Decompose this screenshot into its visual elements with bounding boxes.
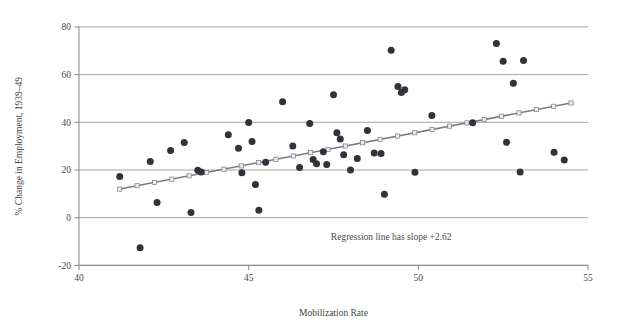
- data-point: [520, 57, 527, 64]
- data-point: [337, 135, 344, 142]
- regression-point-marker: [447, 124, 451, 128]
- data-point: [394, 83, 401, 90]
- data-point: [323, 161, 330, 168]
- data-point: [401, 86, 408, 93]
- data-point: [500, 58, 507, 65]
- x-tick-label-40: 40: [74, 273, 84, 283]
- data-point: [289, 142, 296, 149]
- regression-point-marker: [465, 121, 469, 125]
- data-point: [181, 139, 188, 146]
- x-tick-label-55: 55: [583, 273, 593, 283]
- regression-slope-annotation: Regression line has slope +2.62: [331, 232, 452, 242]
- y-tick-label-0: 0: [66, 213, 71, 223]
- data-point: [493, 40, 500, 47]
- regression-point-marker: [256, 160, 260, 164]
- data-point: [378, 150, 385, 157]
- annotations-group: Regression line has slope +2.62: [331, 232, 452, 242]
- y-tick-label-80: 80: [62, 22, 72, 32]
- data-point: [279, 98, 286, 105]
- axes-group: [79, 27, 588, 266]
- data-point: [551, 149, 558, 156]
- data-point: [154, 199, 161, 206]
- regression-point-marker: [187, 174, 191, 178]
- data-point: [371, 150, 378, 157]
- data-point: [235, 145, 242, 152]
- y-tick-label-60: 60: [62, 70, 72, 80]
- data-point: [503, 139, 510, 146]
- regression-point-marker: [239, 164, 243, 168]
- data-point: [330, 91, 337, 98]
- data-point: [296, 164, 303, 171]
- regression-point-marker: [135, 184, 139, 188]
- data-point: [364, 127, 371, 134]
- x-tick-label-45: 45: [244, 273, 254, 283]
- data-point: [517, 168, 524, 175]
- data-point: [381, 191, 388, 198]
- regression-point-marker: [204, 170, 208, 174]
- gridlines-group: [79, 27, 588, 266]
- data-point: [561, 156, 568, 163]
- data-point: [252, 181, 259, 188]
- regression-point-marker: [291, 154, 295, 158]
- data-point: [469, 119, 476, 126]
- data-points-group: [116, 40, 568, 251]
- data-point: [340, 151, 347, 158]
- data-point: [354, 155, 361, 162]
- y-axis-title: % Change in Employment, 1939–49: [14, 77, 24, 216]
- data-point: [225, 131, 232, 138]
- data-point: [147, 158, 154, 165]
- data-point: [306, 120, 313, 127]
- data-point: [411, 169, 418, 176]
- data-point: [313, 160, 320, 167]
- data-point: [245, 119, 252, 126]
- x-tick-label-50: 50: [414, 273, 424, 283]
- data-point: [333, 129, 340, 136]
- regression-point-marker: [534, 108, 538, 112]
- y-tick-label--20: -20: [58, 261, 71, 271]
- regression-line-group: [118, 101, 574, 191]
- y-tick-label-40: 40: [62, 118, 72, 128]
- x-axis-title: Mobilization Rate: [299, 308, 368, 318]
- regression-point-marker: [517, 111, 521, 115]
- regression-point-marker: [378, 137, 382, 141]
- regression-point-marker: [569, 101, 573, 105]
- regression-point-marker: [118, 187, 122, 191]
- data-point: [187, 209, 194, 216]
- regression-point-marker: [395, 134, 399, 138]
- data-point: [198, 168, 205, 175]
- regression-point-marker: [309, 151, 313, 155]
- scatter-chart: -2002040608040455055 Regression line has…: [0, 0, 620, 329]
- regression-point-marker: [170, 177, 174, 181]
- data-point: [116, 173, 123, 180]
- regression-point-marker: [430, 127, 434, 131]
- regression-point-marker: [361, 141, 365, 145]
- axis-titles-group: Mobilization Rate% Change in Employment,…: [14, 77, 368, 318]
- regression-point-marker: [343, 144, 347, 148]
- regression-point-marker: [274, 157, 278, 161]
- regression-point-marker: [413, 131, 417, 135]
- regression-point-marker: [152, 180, 156, 184]
- data-point: [262, 159, 269, 166]
- data-point: [388, 47, 395, 54]
- data-point: [320, 148, 327, 155]
- regression-point-marker: [482, 117, 486, 121]
- regression-point-marker: [222, 167, 226, 171]
- regression-point-marker: [552, 104, 556, 108]
- data-point: [249, 138, 256, 145]
- data-point: [137, 244, 144, 251]
- y-tick-label-20: 20: [62, 165, 72, 175]
- data-point: [510, 80, 517, 87]
- data-point: [428, 112, 435, 119]
- data-point: [167, 147, 174, 154]
- plot-canvas: -2002040608040455055 Regression line has…: [0, 0, 620, 329]
- data-point: [347, 167, 354, 174]
- data-point: [238, 169, 245, 176]
- data-point: [255, 207, 262, 214]
- regression-point-marker: [500, 114, 504, 118]
